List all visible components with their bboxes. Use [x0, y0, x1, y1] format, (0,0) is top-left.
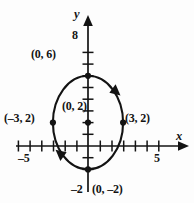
- y-tick-label-minus-2: –2: [71, 183, 83, 195]
- x-tick-label-minus-5: –5: [18, 152, 30, 164]
- point-label-3-2: (3, 2): [125, 112, 150, 124]
- point-marker-0-6: [85, 73, 91, 79]
- point-label-0-6: (0, 6): [31, 48, 56, 60]
- point-label-0-neg2: (0, –2): [92, 183, 123, 195]
- y-axis-label: y: [74, 8, 79, 21]
- y-tick-label-8: 8: [72, 29, 78, 41]
- y-axis-arrowhead: [83, 15, 93, 26]
- point-label-neg3-2: (–3, 2): [4, 112, 35, 124]
- coordinate-plane-svg: [0, 0, 194, 203]
- point-marker-0-2: [85, 120, 91, 126]
- x-tick-label-5: 5: [154, 152, 160, 164]
- ellipse-graph-figure: y x 8 –2 –5 5 (0, 6) (0, 2) (–3, 2) (3, …: [0, 0, 194, 203]
- point-marker-neg3-2: [50, 120, 56, 126]
- point-label-0-2: (0, 2): [62, 100, 87, 112]
- point-marker-0-neg2: [85, 166, 91, 172]
- x-axis-label: x: [176, 130, 182, 143]
